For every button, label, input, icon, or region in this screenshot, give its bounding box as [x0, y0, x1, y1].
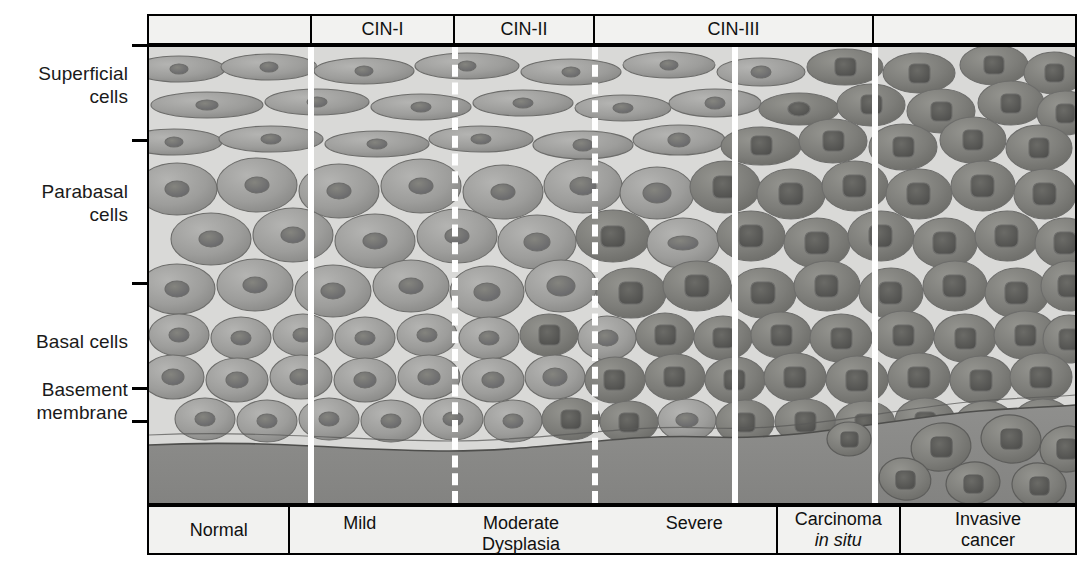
tissue-svg-wrap: [149, 47, 1075, 503]
header-cell-cin3: CIN-III: [595, 16, 874, 43]
footer-cell-dysplasia: Mild Moderate Dysplasia Severe: [290, 507, 777, 553]
footer-label-carcinoma: Carcinoma: [795, 509, 882, 530]
footer-row: Normal Mild Moderate Dysplasia Severe Ca…: [147, 505, 1077, 555]
divider-normal-cin1: [308, 47, 314, 503]
footer-cell-carcinoma-in-situ: Carcinoma in situ: [778, 507, 901, 553]
divider-cin3-cis: [732, 47, 738, 503]
header-cell-cin1: CIN-I: [312, 16, 455, 43]
diagram-frame: CIN-I CIN-II CIN-III: [147, 14, 1077, 555]
footer-label-moderate: Moderate Dysplasia: [482, 513, 560, 555]
cin-progression-diagram: Superficial cells Parabasal cells Basal …: [0, 0, 1084, 569]
divider-cis-invasive: [872, 47, 878, 503]
footer-label-cancer: cancer: [961, 530, 1015, 551]
epithelium-illustration: [147, 45, 1077, 505]
axis-label-parabasal-cells: Parabasal cells: [0, 180, 128, 226]
footer-label-severe: Severe: [666, 513, 723, 534]
header-row: CIN-I CIN-II CIN-III: [147, 14, 1077, 45]
footer-label-in-situ: in situ: [815, 530, 862, 551]
header-cell-cin2: CIN-II: [455, 16, 595, 43]
divider-cin2-cin3: [592, 47, 598, 503]
tissue-drawing: [149, 47, 1075, 503]
header-cell-invasive: [874, 16, 1075, 43]
footer-cell-normal: Normal: [149, 507, 290, 553]
footer-cell-invasive-cancer: Invasive cancer: [901, 507, 1075, 553]
axis-label-superficial-cells: Superficial cells: [0, 62, 128, 108]
header-cell-normal: [149, 16, 312, 43]
axis-label-basement-membrane: Basement membrane: [0, 378, 128, 424]
axis-label-basal-cells: Basal cells: [0, 330, 128, 353]
footer-label-mild: Mild: [343, 513, 376, 534]
divider-cin1-cin2: [452, 47, 458, 503]
footer-label-invasive: Invasive: [955, 509, 1021, 530]
